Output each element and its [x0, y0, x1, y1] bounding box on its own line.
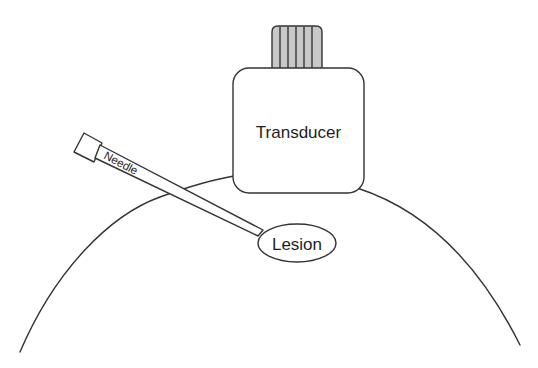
needle-biopsy-diagram: Transducer Needle Lesion — [0, 0, 538, 368]
transducer-connector — [272, 26, 322, 69]
transducer-label: Transducer — [256, 123, 342, 142]
lesion-label: Lesion — [272, 235, 322, 254]
body-contour-right — [357, 188, 520, 345]
transducer: Transducer — [233, 68, 364, 193]
lesion: Lesion — [258, 224, 336, 262]
